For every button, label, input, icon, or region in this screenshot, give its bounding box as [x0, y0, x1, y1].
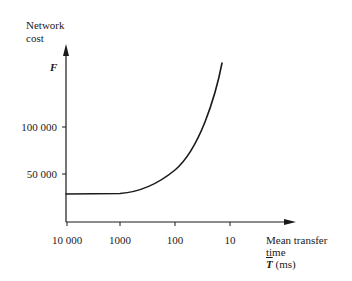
- x-tick-label-10000: 10 000: [42, 234, 92, 246]
- cost-curve: [66, 63, 222, 194]
- y-tick-label-100000: 100 000: [1, 121, 57, 133]
- y-axis-title-line1: Network: [26, 19, 65, 31]
- x-tick-label-10: 10: [205, 234, 255, 246]
- x-axis-title-line2: time: [266, 246, 286, 258]
- x-axis-arrow-icon: [284, 219, 296, 225]
- y-axis-title-line2: cost: [26, 32, 44, 44]
- x-tick-label-100: 100: [150, 234, 200, 246]
- x-axis-unit: (ms): [275, 258, 295, 270]
- x-axis-symbol: T: [266, 258, 273, 270]
- x-axis-title-line1: Mean transfer: [266, 234, 327, 246]
- y-tick-label-50000: 50 000: [1, 168, 57, 180]
- x-tick-label-1000: 1000: [95, 234, 145, 246]
- x-axis-symbol-unit: T (ms): [266, 258, 296, 270]
- y-axis-arrow-icon: [63, 44, 69, 56]
- y-axis-symbol: F: [50, 61, 57, 73]
